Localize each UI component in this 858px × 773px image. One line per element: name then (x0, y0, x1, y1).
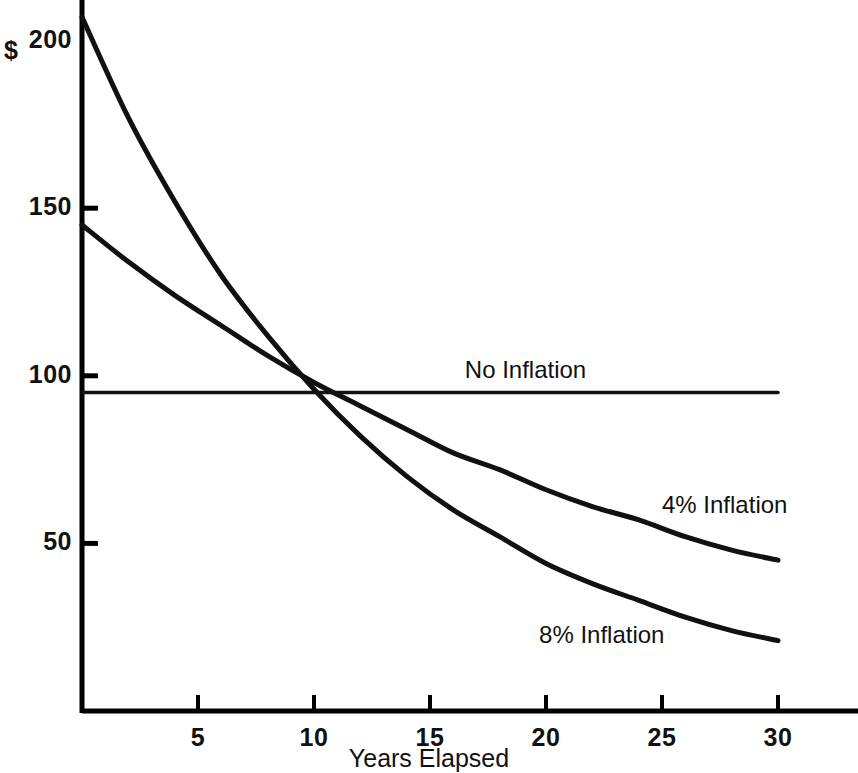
y-axis-tick-label-50: 50 (0, 527, 72, 556)
series-label-no-inflation: No Inflation (465, 356, 586, 384)
series-label-8-inflation: 8% Inflation (539, 621, 664, 649)
x-axis-title: Years Elapsed (0, 744, 858, 773)
series-label-4-inflation: 4% Inflation (662, 491, 787, 519)
chart-container: $ 20015010050 51015202530 No Inflation4%… (0, 0, 858, 773)
y-axis-tick-label-150: 150 (0, 192, 72, 221)
y-axis-tick-label-200: 200 (0, 25, 72, 54)
y-axis-tick-label-100: 100 (0, 360, 72, 389)
series-line-8-inflation (82, 17, 778, 640)
chart-series-group (82, 17, 778, 640)
chart-plot-area (0, 0, 858, 773)
